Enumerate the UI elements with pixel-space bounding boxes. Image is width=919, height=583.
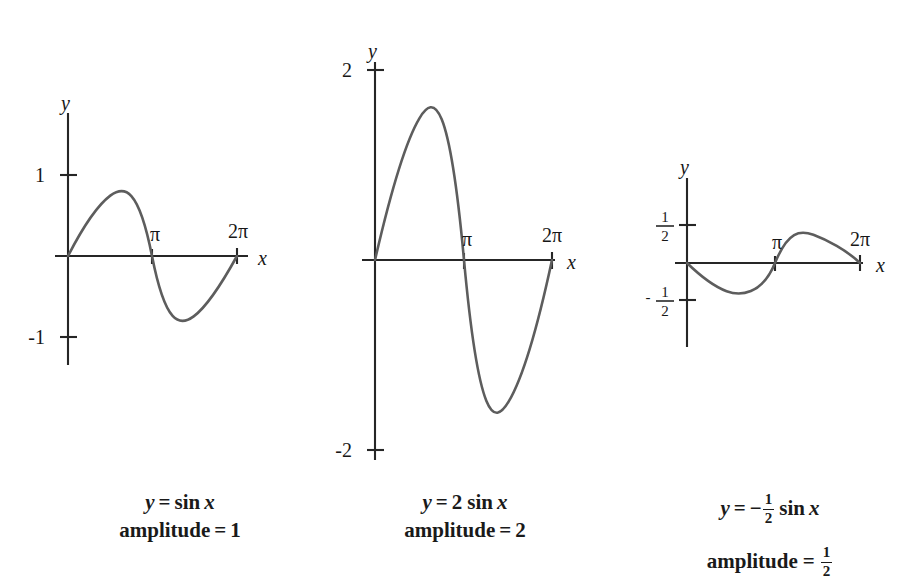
caption-2-eq-var: x (497, 490, 508, 514)
y-tick-label-2-neg: -2 (335, 439, 352, 461)
x-tick-label-3-2pi: 2π (850, 228, 870, 250)
y-tick-label-1-neg: -1 (28, 326, 45, 348)
caption-3-eq-minus: − (750, 496, 762, 520)
y-axis-label-3: y (678, 156, 689, 179)
caption-2-eq-lhs: y (423, 490, 432, 514)
caption-2-eq-func: sin (467, 490, 493, 514)
caption-2: y=2sinx amplitude=2 (340, 489, 590, 544)
caption-2-amp-value: 2 (515, 518, 526, 542)
caption-3-amplitude: amplitude=12 (640, 545, 900, 580)
sine-amplitude-figure: y x 1 -1 π 2π y=sinx amplitude=1 y (0, 0, 919, 583)
caption-1-amplitude: amplitude=1 (55, 517, 305, 545)
y-tick-label-1-pos: 1 (35, 164, 45, 186)
caption-3-amp-label: amplitude (707, 549, 798, 573)
x-tick-label-2-pi: π (462, 228, 472, 250)
caption-3-amp-eq: = (803, 549, 815, 573)
caption-3-equation: y=−12sinx (640, 492, 900, 527)
graph-panel-3: y x 1 2 - 1 2 π 2π (620, 150, 919, 370)
x-tick-label-3-pi: π (772, 231, 782, 253)
caption-3-amplitude-wrap: amplitude=12 (640, 545, 900, 580)
x-axis-label-1: x (257, 247, 267, 269)
sine-plot-1: y x 1 -1 π 2π (0, 95, 300, 385)
x-tick-label-1-pi: π (150, 223, 160, 245)
x-axis-label-3: x (875, 254, 885, 276)
sine-plot-2: y x 2 -2 π 2π (290, 20, 610, 480)
caption-1-amp-value: 1 (230, 518, 241, 542)
caption-3-eq-fraction: 12 (763, 492, 775, 527)
caption-3-eq-fraction-denominator: 2 (763, 510, 775, 527)
caption-2-eq-coeff: 2 (452, 490, 463, 514)
caption-3-eq-lhs: y (721, 496, 730, 520)
caption-2-amp-label: amplitude (404, 518, 495, 542)
caption-1-eq-lhs: y (145, 490, 154, 514)
caption-3-equation-wrap: y=−12sinx (640, 492, 900, 527)
graph-panel-1: y x 1 -1 π 2π (0, 95, 300, 385)
caption-2-amp-eq: = (499, 518, 511, 542)
graph-panel-2: y x 2 -2 π 2π (290, 20, 610, 480)
y-tick-label-3-neg-sign: - (646, 289, 651, 305)
caption-1-eq-func: sin (175, 490, 201, 514)
caption-1: y=sinx amplitude=1 (55, 489, 305, 544)
y-tick-label-3-neg: - 1 2 (646, 284, 675, 319)
caption-3-amp-fraction-numerator: 1 (821, 545, 833, 563)
caption-3-eq-func: sin (779, 496, 805, 520)
y-tick-label-3-neg-denominator: 2 (661, 303, 669, 319)
caption-3-eq-sign: = (734, 496, 746, 520)
caption-1-amp-label: amplitude (119, 518, 210, 542)
caption-1-eq-sign: = (159, 490, 171, 514)
caption-3-eq-fraction-numerator: 1 (763, 492, 775, 510)
y-tick-label-3-neg-numerator: 1 (661, 284, 669, 300)
caption-3-eq-var: x (809, 496, 820, 520)
caption-2-equation: y=2sinx (340, 489, 590, 517)
caption-2-amplitude: amplitude=2 (340, 517, 590, 545)
y-axis-label-1: y (59, 95, 70, 115)
y-tick-label-3-pos: 1 2 (656, 209, 674, 244)
caption-1-amp-eq: = (214, 518, 226, 542)
y-axis-label-2: y (366, 40, 377, 63)
y-tick-label-3-pos-denominator: 2 (661, 228, 669, 244)
x-axis-label-2: x (566, 251, 576, 273)
caption-3-amp-fraction-denominator: 2 (821, 563, 833, 580)
y-tick-label-2-pos: 2 (342, 59, 352, 81)
caption-1-equation: y=sinx (55, 489, 305, 517)
caption-1-eq-var: x (204, 490, 215, 514)
x-tick-label-2-2pi: 2π (542, 224, 562, 246)
y-tick-label-3-pos-numerator: 1 (661, 209, 669, 225)
sine-plot-3: y x 1 2 - 1 2 π 2π (620, 150, 919, 370)
x-tick-label-1-2pi: 2π (228, 220, 248, 242)
caption-3-amp-fraction: 12 (821, 545, 833, 580)
caption-2-eq-sign: = (436, 490, 448, 514)
